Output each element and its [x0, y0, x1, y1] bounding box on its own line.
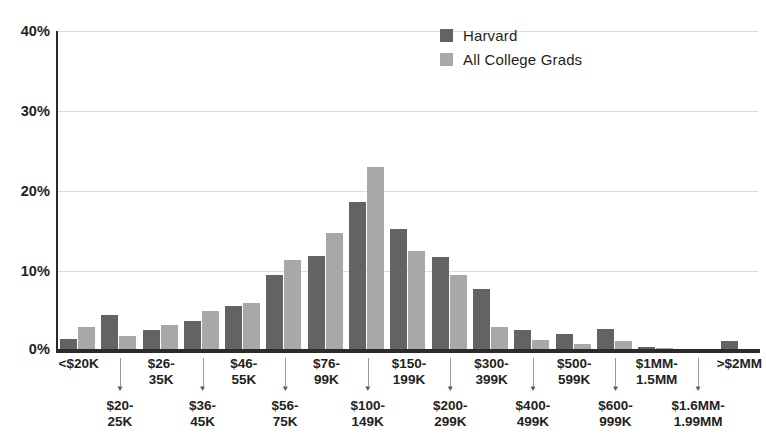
x-axis-label: $400-499K: [495, 398, 571, 430]
bar-harvard: [597, 329, 614, 351]
x-axis-label: $1.6MM-1.99MM: [660, 398, 736, 430]
bar-group: [101, 31, 137, 351]
bar-group: [143, 31, 179, 351]
x-axis-label: $100-149K: [330, 398, 406, 430]
bar-all-college-grads: [284, 260, 301, 351]
bar-all-college-grads: [326, 233, 343, 351]
bar-all-college-grads: [450, 275, 467, 351]
legend-item-harvard: Harvard: [440, 27, 582, 44]
bar-all-college-grads: [243, 303, 260, 351]
x-axis-label: >$2MM: [701, 356, 766, 372]
bar-all-college-grads: [491, 327, 508, 351]
plot-area: [58, 31, 760, 351]
bar-chart: 40% 30% 20% 10% 0% Harvard All College G…: [0, 0, 766, 448]
x-tick-stem: [698, 358, 699, 386]
y-tick-label-0: 0%: [0, 341, 50, 357]
bar-group: [514, 31, 550, 351]
bar-harvard: [225, 306, 242, 351]
bar-all-college-grads: [202, 311, 219, 351]
bar-harvard: [184, 321, 201, 351]
y-tick-label-40: 40%: [0, 23, 50, 39]
bar-group: [266, 31, 302, 351]
bar-harvard: [473, 289, 490, 351]
bar-harvard: [143, 330, 160, 351]
bar-group: [390, 31, 426, 351]
legend: Harvard All College Grads: [440, 27, 582, 75]
x-axis-label: $600-999K: [577, 398, 653, 430]
bar-harvard: [266, 275, 283, 351]
x-tick-stem: [533, 358, 534, 386]
bar-harvard: [390, 229, 407, 351]
x-axis-label: $46-55K: [206, 356, 282, 388]
x-axis-line: [56, 349, 760, 353]
y-tick-label-30: 30%: [0, 103, 50, 119]
x-tick-stem: [450, 358, 451, 386]
y-tick-label-10: 10%: [0, 263, 50, 279]
x-tick-stem: [285, 358, 286, 386]
bar-group: [556, 31, 592, 351]
x-axis-label: $200-299K: [412, 398, 488, 430]
bar-harvard: [432, 257, 449, 351]
x-tick-stem: [368, 358, 369, 386]
legend-label-all-college-grads: All College Grads: [463, 51, 582, 68]
legend-item-all-college-grads: All College Grads: [440, 51, 582, 68]
bar-group: [597, 31, 633, 351]
legend-swatch-icon-all-college-grads: [440, 53, 453, 66]
x-tick-stem: [615, 358, 616, 386]
bar-group: [638, 31, 674, 351]
bar-harvard: [514, 330, 531, 351]
bar-group: [349, 31, 385, 351]
x-axis-label: $150-199K: [371, 356, 447, 388]
bar-group: [308, 31, 344, 351]
bar-group: [432, 31, 468, 351]
x-tick-arrow-icon: ▼: [692, 384, 704, 394]
x-axis-label: $300-399K: [454, 356, 530, 388]
legend-label-harvard: Harvard: [463, 27, 517, 44]
bar-group: [721, 31, 757, 351]
bar-all-college-grads: [161, 325, 178, 351]
bar-harvard: [101, 315, 118, 351]
x-tick-stem: [120, 358, 121, 386]
bar-all-college-grads: [367, 167, 384, 351]
x-axis-label: $36-45K: [165, 398, 241, 430]
x-axis-label: $20-25K: [82, 398, 158, 430]
legend-swatch-icon-harvard: [440, 29, 453, 42]
x-axis-label: $56-75K: [247, 398, 323, 430]
bar-all-college-grads: [408, 251, 425, 351]
x-tick-stem: [203, 358, 204, 386]
x-axis-label: <$20K: [41, 356, 117, 372]
bar-group: [184, 31, 220, 351]
bar-harvard: [349, 202, 366, 351]
x-axis-label: $76-99K: [288, 356, 364, 388]
x-axis-label: $26-35K: [123, 356, 199, 388]
x-axis-labels: <$20K$20-25K▼$26-35K$36-45K▼$46-55K$56-7…: [0, 356, 766, 448]
bar-group: [679, 31, 715, 351]
bar-group: [225, 31, 261, 351]
x-axis-label: $1MM-1.5MM: [619, 356, 695, 388]
bar-all-college-grads: [78, 327, 95, 351]
bar-harvard: [308, 256, 325, 351]
bar-group: [60, 31, 96, 351]
bar-group: [473, 31, 509, 351]
y-tick-label-20: 20%: [0, 183, 50, 199]
x-axis-label: $500-599K: [536, 356, 612, 388]
